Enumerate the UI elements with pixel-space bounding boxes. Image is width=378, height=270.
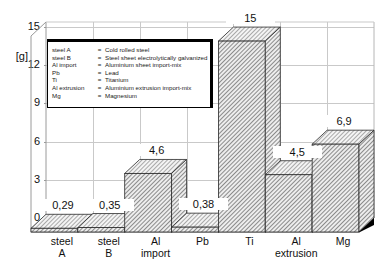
legend-equals: = xyxy=(96,92,105,100)
value-label-steel-A: 0,29 xyxy=(39,199,88,211)
legend-row: Al import=Aluminium sheet import-mix xyxy=(52,61,210,69)
legend-description: Aluminium extrusion import-mix xyxy=(105,84,210,92)
legend-key: steel A xyxy=(52,46,96,54)
legend-key: Al import xyxy=(52,61,96,69)
x-axis-label-line2: B xyxy=(85,248,132,260)
legend-equals: = xyxy=(96,46,105,54)
value-label-steel-B: 0,35 xyxy=(85,199,134,211)
value-label-Mg: 6,9 xyxy=(320,115,369,127)
x-axis-label-line2: A xyxy=(39,248,86,260)
legend-equals: = xyxy=(96,69,105,77)
x-axis-label-line1: Al xyxy=(273,236,320,248)
legend-box: steel A=Cold rolled steelsteel B=Steel s… xyxy=(47,39,213,108)
x-axis-label-line2: import xyxy=(132,248,179,260)
legend-table: steel A=Cold rolled steelsteel B=Steel s… xyxy=(52,46,210,99)
x-axis-label-line1: Al xyxy=(132,236,179,248)
legend-key: Mg xyxy=(52,92,96,100)
legend-description: Magnesium xyxy=(105,92,210,100)
legend-equals: = xyxy=(96,54,105,62)
x-axis-label-Ti: Ti xyxy=(226,236,273,248)
legend-row: Ti=Titanium xyxy=(52,76,210,84)
x-axis-label-Al-import: Alimport xyxy=(132,236,179,259)
legend-key: Pb xyxy=(52,69,96,77)
legend-equals: = xyxy=(96,76,105,84)
x-axis-label-line1: Pb xyxy=(179,236,226,248)
x-axis-label-steel-A: steelA xyxy=(39,236,86,259)
x-axis-label-line1: Mg xyxy=(320,236,367,248)
value-label-Ti: 15 xyxy=(226,12,275,24)
legend-description: Aluminium sheet import-mix xyxy=(105,61,210,69)
value-label-Al-import: 4,6 xyxy=(132,144,181,156)
x-axis-label-Mg: Mg xyxy=(320,236,367,248)
x-axis-label-steel-B: steelB xyxy=(85,236,132,259)
legend-key: Al extrusion xyxy=(52,84,96,92)
x-axis-label-line1: Ti xyxy=(226,236,273,248)
legend-equals: = xyxy=(96,61,105,69)
x-axis-label-Pb: Pb xyxy=(179,236,226,248)
x-axis-label-line1: steel xyxy=(85,236,132,248)
legend-key: steel B xyxy=(52,54,96,62)
x-axis-label-line2: extrusion xyxy=(273,248,320,260)
value-label-Al-extrusion: 4,5 xyxy=(273,146,322,158)
legend-description: Lead xyxy=(105,69,210,77)
legend-key: Ti xyxy=(52,76,96,84)
legend-equals: = xyxy=(96,84,105,92)
legend-row: steel B=Steel sheet electrolytically gal… xyxy=(52,54,210,62)
chart-container: [g] 03691215 0,29 xyxy=(0,0,378,270)
legend-row: Mg=Magnesium xyxy=(52,92,210,100)
legend-row: steel A=Cold rolled steel xyxy=(52,46,210,54)
legend-description: Steel sheet electrolytically galvanized xyxy=(105,54,210,62)
x-axis-label-Al-extrusion: Alextrusion xyxy=(273,236,320,259)
legend-row: Pb=Lead xyxy=(52,69,210,77)
x-axis-label-line1: steel xyxy=(39,236,86,248)
value-label-Pb: 0,38 xyxy=(179,198,228,210)
legend-description: Titanium xyxy=(105,76,210,84)
legend-row: Al extrusion=Aluminium extrusion import-… xyxy=(52,84,210,92)
legend-description: Cold rolled steel xyxy=(105,46,210,54)
